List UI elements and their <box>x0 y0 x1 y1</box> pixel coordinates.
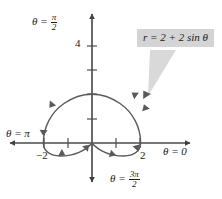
axis-label-left-prefix: θ = <box>6 127 22 139</box>
fraction-pi-over-2: π 2 <box>51 13 58 32</box>
axis-label-top-prefix: θ = <box>32 15 48 27</box>
tick-label-neg-2: −2 <box>36 150 48 161</box>
direction-arrows <box>39 89 149 159</box>
axis-label-theta-3pi-over-2: θ = 3π 2 <box>110 170 140 189</box>
axis-label-theta-zero: θ = 0 <box>163 146 187 157</box>
axis-label-bottom-prefix: θ = <box>110 172 126 184</box>
direction-arrow-icon-7 <box>109 150 117 159</box>
tick-label-4: 4 <box>75 38 81 49</box>
direction-arrow-icon-5 <box>58 149 67 159</box>
equation-text: r = 2 + 2 sin θ <box>143 31 208 43</box>
direction-arrow-icon-3 <box>46 101 56 111</box>
direction-arrow-icon-4 <box>39 130 47 136</box>
callout-leader-shape <box>148 50 176 96</box>
axis-label-theta-pi: θ = π <box>6 128 30 139</box>
axis-label-left-value: π <box>24 127 30 139</box>
direction-arrow-icon-1 <box>140 103 150 111</box>
tick-label-2: 2 <box>140 150 146 161</box>
polar-graph-figure: θ = π 2 θ = π θ = 0 θ = 3π 2 4 −2 2 r = … <box>0 0 222 199</box>
axis-label-right-prefix: θ = <box>163 145 179 157</box>
fraction-denominator: 2 <box>51 23 58 32</box>
callout-leader <box>139 50 176 99</box>
fraction-3pi-over-2: 3π 2 <box>129 170 140 189</box>
axis-label-theta-pi-over-2: θ = π 2 <box>32 13 58 32</box>
equation-callout-box: r = 2 + 2 sin θ <box>137 29 214 47</box>
axis-label-right-value: 0 <box>181 145 187 157</box>
fraction-denominator: 2 <box>129 180 140 189</box>
